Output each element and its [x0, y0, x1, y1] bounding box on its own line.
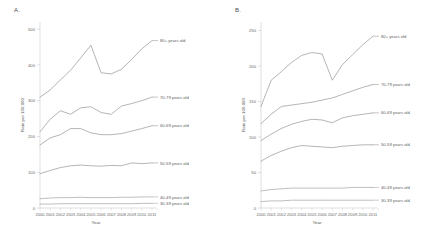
x-tick-label: 2004: [76, 212, 86, 217]
x-tick-label: 2008: [117, 212, 127, 217]
x-tick-label: 2004: [297, 212, 307, 217]
series-label: 40-49 years old: [381, 185, 411, 190]
series-label: 40-49 years old: [160, 195, 190, 200]
series-line: [261, 187, 373, 191]
y-tick-label: 200: [28, 134, 36, 139]
series-label: 70-79 years old: [160, 95, 190, 100]
series-label: 80+ years old: [381, 34, 407, 39]
panel-a-svg: 0100200300400500200020012002200320042005…: [0, 0, 221, 242]
series-line: [261, 113, 373, 141]
x-axis-title: Year: [313, 220, 322, 225]
series-line: [261, 145, 373, 161]
x-tick-label: 2011: [369, 212, 379, 217]
series-label: 30-39 years old: [160, 201, 190, 206]
y-tick-label: 0: [254, 206, 257, 211]
x-tick-label: 2006: [318, 212, 328, 217]
series-label: 80+ years old: [160, 38, 186, 43]
series-line: [261, 36, 373, 106]
x-tick-label: 2003: [66, 212, 76, 217]
x-tick-label: 2005: [307, 212, 317, 217]
panel-a-plot: 0100200300400500200020012002200320042005…: [0, 0, 221, 242]
x-tick-label: 2002: [56, 212, 66, 217]
series-label: 70-79 years old: [381, 82, 411, 87]
y-tick-label: 100: [28, 170, 36, 175]
figure-two-panel-line-chart: A. 0100200300400500200020012002200320042…: [0, 0, 442, 242]
panel-b-svg: 0501001502002502000200120022003200420052…: [221, 0, 442, 242]
panel-a: A. 0100200300400500200020012002200320042…: [0, 0, 221, 242]
series-line: [40, 126, 152, 145]
x-tick-label: 2006: [97, 212, 107, 217]
series-line: [261, 200, 373, 201]
y-tick-label: 0: [33, 206, 36, 211]
panel-b-plot: 0501001502002502000200120022003200420052…: [221, 0, 442, 242]
series-line: [40, 163, 152, 174]
series-line: [40, 41, 152, 98]
x-tick-label: 2011: [148, 212, 158, 217]
y-tick-label: 250: [249, 28, 257, 33]
x-axis-title: Year: [92, 220, 101, 225]
series-line: [261, 84, 373, 123]
y-axis-title: Rate per 100,000: [20, 97, 25, 131]
x-tick-label: 2000: [35, 212, 45, 217]
x-tick-label: 2009: [348, 212, 358, 217]
y-tick-label: 150: [249, 99, 257, 104]
y-tick-label: 100: [249, 135, 257, 140]
y-tick-label: 500: [28, 27, 36, 32]
series-line: [40, 97, 152, 132]
series-label: 50-59 years old: [160, 161, 190, 166]
x-tick-label: 2007: [328, 212, 338, 217]
series-label: 50-59 years old: [381, 142, 411, 147]
x-tick-label: 2003: [287, 212, 297, 217]
y-tick-label: 400: [28, 63, 36, 68]
series-label: 60-69 years old: [160, 123, 190, 128]
series-line: [40, 203, 152, 204]
y-tick-label: 50: [251, 170, 256, 175]
x-tick-label: 2001: [267, 212, 277, 217]
x-tick-label: 2001: [46, 212, 56, 217]
x-tick-label: 2010: [358, 212, 368, 217]
x-tick-label: 2005: [86, 212, 96, 217]
x-tick-label: 2010: [137, 212, 147, 217]
x-tick-label: 2007: [107, 212, 117, 217]
x-tick-label: 2009: [127, 212, 137, 217]
x-tick-label: 2000: [256, 212, 266, 217]
y-tick-label: 200: [249, 64, 257, 69]
series-label: 60-69 years old: [381, 110, 411, 115]
y-axis-title: Rate per 100,000: [241, 97, 246, 131]
y-tick-label: 300: [28, 98, 36, 103]
x-tick-label: 2008: [338, 212, 348, 217]
series-line: [40, 197, 152, 199]
series-label: 30-39 years old: [381, 198, 411, 203]
x-tick-label: 2002: [277, 212, 287, 217]
panel-b: B. 0501001502002502000200120022003200420…: [221, 0, 442, 242]
